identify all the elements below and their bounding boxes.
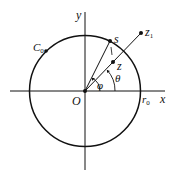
point-s bbox=[108, 39, 112, 43]
circle-label: C0 bbox=[33, 41, 44, 55]
point-z bbox=[111, 60, 115, 64]
y-axis-label: y bbox=[75, 8, 82, 22]
angle-theta-label: θ bbox=[115, 72, 121, 84]
angle-theta-arc bbox=[107, 70, 115, 91]
point-origin bbox=[83, 89, 87, 93]
complex-plane-diagram: y x O C0 r0 s z z1 φ θ bbox=[0, 0, 174, 174]
point-z-label: z bbox=[116, 59, 122, 73]
angle-phi-label: φ bbox=[97, 79, 103, 91]
arrow-s-to-z bbox=[111, 47, 112, 55]
origin-label: O bbox=[72, 94, 81, 108]
point-z1-label: z1 bbox=[144, 25, 154, 40]
radius-label: r0 bbox=[142, 93, 150, 107]
point-s-label: s bbox=[114, 32, 119, 46]
x-axis-label: x bbox=[159, 92, 166, 106]
point-z1 bbox=[139, 31, 143, 35]
point-c0 bbox=[44, 49, 48, 53]
